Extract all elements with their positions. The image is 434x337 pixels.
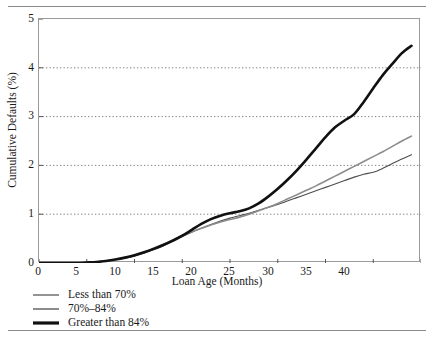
legend-item-2: Greater than 84% [33, 316, 293, 329]
series-line-2 [39, 46, 411, 263]
y-tick-5: 5 [18, 12, 34, 24]
legend-item-0: Less than 70% [33, 288, 293, 301]
series-line-0 [39, 155, 411, 263]
legend-item-1: 70%–84% [33, 302, 293, 315]
legend-swatch-1 [33, 303, 59, 315]
legend-swatch-0 [33, 289, 59, 301]
y-tick-2: 2 [18, 158, 34, 170]
y-tick-1: 1 [18, 207, 34, 219]
y-tick-4: 4 [18, 61, 34, 73]
legend-label-2: Greater than 84% [68, 316, 149, 329]
chart-canvas [39, 19, 421, 263]
legend-swatch-2 [33, 317, 59, 329]
y-axis-title: Cumulative Defaults (%) [6, 55, 18, 205]
series-line-1 [39, 136, 411, 263]
x-axis-title: Loan Age (Months) [0, 275, 434, 287]
legend-label-0: Less than 70% [68, 288, 136, 301]
bottom-rule [8, 330, 426, 331]
top-rule [8, 6, 426, 7]
legend: Less than 70% 70%–84% Greater than 84% [33, 288, 293, 330]
y-axis-title-wrap: Cumulative Defaults (%) [0, 18, 20, 262]
figure: 0 1 2 3 4 5 Cumulative Defaults (%) 0 5 … [0, 0, 434, 337]
legend-label-1: 70%–84% [68, 302, 116, 315]
plot-area [38, 18, 420, 262]
y-tick-3: 3 [18, 109, 34, 121]
